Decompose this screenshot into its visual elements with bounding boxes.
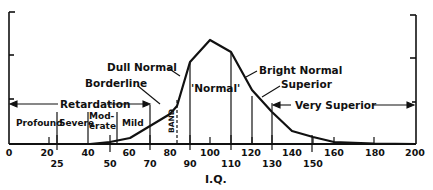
bright-normal-pointer (246, 71, 257, 77)
svg-text:200: 200 (405, 147, 425, 158)
svg-text:70: 70 (143, 158, 157, 169)
mild-label: Mild (122, 118, 144, 128)
svg-text:130: 130 (262, 158, 282, 169)
dull-normal-label: Dull Normal (107, 61, 177, 73)
superior-pointer (262, 86, 280, 97)
svg-text:60: 60 (122, 147, 136, 158)
svg-text:25: 25 (50, 158, 63, 169)
svg-text:180: 180 (365, 147, 385, 158)
svg-text:140: 140 (282, 147, 302, 158)
svg-text:20: 20 (40, 147, 54, 158)
moderate-label-2: erate (89, 121, 116, 131)
profound-label: Profound (16, 118, 63, 128)
svg-text:0: 0 (6, 147, 13, 158)
x-axis-label: I.Q. (205, 173, 227, 186)
svg-text:80: 80 (163, 147, 177, 158)
moderate-label-1: Mod- (89, 111, 115, 121)
normal-label: 'Normal' (191, 82, 240, 94)
borderline-label: Borderline (85, 77, 147, 89)
svg-text:40: 40 (81, 147, 95, 158)
iq-distribution-chart: Retardation Profound Severe Mod- erate M… (0, 0, 433, 190)
retardation-label: Retardation (60, 98, 130, 110)
svg-text:120: 120 (241, 147, 261, 158)
x-tick-labels-top: 0 20 40 60 80 100 120 140 160 180 200 (6, 147, 426, 158)
borderline-pointer (138, 86, 160, 104)
svg-text:160: 160 (324, 147, 344, 158)
svg-text:50: 50 (103, 158, 117, 169)
svg-text:90: 90 (183, 158, 197, 169)
svg-text:150: 150 (303, 158, 323, 169)
x-tick-labels-bottom: 25 50 70 90 110 130 150 (50, 158, 323, 169)
bright-normal-label: Bright Normal (259, 64, 342, 76)
very-superior-label: Very Superior (295, 99, 377, 111)
svg-text:100: 100 (200, 147, 220, 158)
svg-text:110: 110 (221, 158, 241, 169)
band-label: BAND (167, 109, 176, 133)
superior-label: Superior (281, 78, 333, 90)
